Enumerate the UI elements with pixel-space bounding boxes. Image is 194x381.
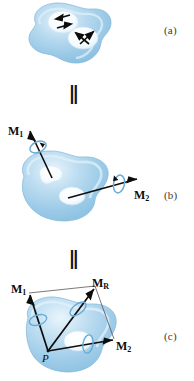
vector-label-m1-symbol-c: M xyxy=(11,282,22,296)
vector-label-m2-subscript-b: 2 xyxy=(145,194,149,203)
vector-label-m1-symbol-b: M xyxy=(8,124,19,138)
vector-label-m1-panel-c: M1 xyxy=(11,283,26,297)
vector-label-m2-subscript-c: 2 xyxy=(127,345,131,354)
equivalence-symbol-a-b: ‖ xyxy=(0,82,150,109)
part-label-a: (a) xyxy=(164,24,177,36)
vector-label-m2-symbol-c: M xyxy=(116,339,127,353)
vector-label-mr-panel-c: MR xyxy=(92,277,109,291)
vector-label-m1-subscript-b: 1 xyxy=(19,130,23,139)
equivalence-symbol-b-c: ‖ xyxy=(0,247,150,274)
body-blob-b xyxy=(22,151,108,221)
panel-b-illustration xyxy=(0,120,194,245)
vector-label-m2-symbol-b: M xyxy=(134,188,145,202)
figure-root: (a) ‖ xyxy=(0,0,194,381)
vector-label-m1-subscript-c: 1 xyxy=(22,288,26,297)
part-label-c: (c) xyxy=(164,330,177,342)
point-label-p: P xyxy=(42,352,49,364)
panel-a-body-with-spins xyxy=(0,0,194,80)
vector-label-mr-symbol-c: M xyxy=(92,276,103,290)
cavity-lower-b xyxy=(59,187,85,205)
part-label-b: (b) xyxy=(164,189,177,201)
panel-b-moment-vectors xyxy=(0,120,194,245)
panel-a-illustration xyxy=(0,0,194,80)
vector-label-m1-panel-b: M1 xyxy=(8,125,23,139)
vector-label-m2-panel-c: M2 xyxy=(116,340,131,354)
vector-label-mr-subscript-c: R xyxy=(103,282,109,291)
cavity-lower-a xyxy=(68,27,98,49)
vector-label-m2-panel-b: M2 xyxy=(134,189,149,203)
